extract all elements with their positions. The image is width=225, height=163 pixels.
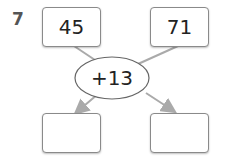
- answer-box-2[interactable]: [150, 113, 209, 153]
- answer-box-1[interactable]: [42, 113, 101, 153]
- operation-ellipse: +13: [74, 56, 150, 100]
- input-box-1: 45: [42, 7, 101, 47]
- input-box-2: 71: [150, 7, 209, 47]
